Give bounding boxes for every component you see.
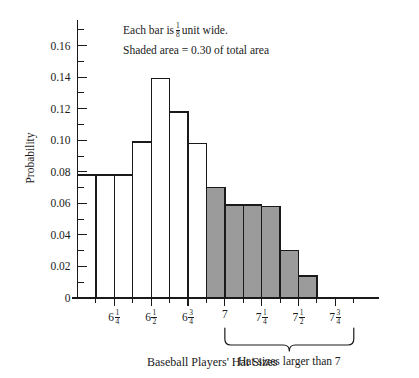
y-tick-label: 0.08 [50,166,70,178]
x-tick-whole: 7 [222,309,228,321]
brace-path-group [225,328,354,351]
y-tick-label: 0.10 [50,134,70,146]
x-tick-whole: 7 [256,312,262,324]
histogram-bar [170,112,188,298]
annotation-bar-width: Each bar is 1 8 unit wide. [123,22,228,39]
histogram-bar [114,175,132,298]
x-tick-label: 734 [329,309,341,326]
x-tick-fraction: 34 [188,309,194,326]
x-tick-label: 634 [182,309,194,326]
histogram-bar [151,79,169,298]
annotation-bar-width-prefix: Each bar is [123,24,174,36]
fraction-denominator: 4 [336,318,342,326]
x-tick-label: 714 [256,309,268,326]
histogram-bar-shaded [280,251,298,298]
fraction-numerator: 1 [262,309,268,317]
histogram-bar-shaded [243,205,261,298]
histogram-bar [78,175,96,298]
chart-canvas [0,0,419,378]
bars-group [78,79,317,298]
histogram-bar-shaded [225,205,243,298]
fraction-denominator: 4 [262,318,268,326]
curly-brace-icon [225,328,354,351]
x-tick-whole: 6 [108,312,114,324]
y-tick-label: 0.04 [50,229,70,241]
x-tick-label: 614 [108,309,120,326]
annotation-shaded-area: Shaded area = 0.30 of total area [123,44,269,56]
y-tick-label: 0.02 [50,260,70,272]
x-tick-label: 612 [145,309,157,326]
histogram-bar [188,143,206,298]
fraction-numerator: 1 [115,309,121,317]
histogram-bar [133,142,151,298]
histogram-bar [96,175,114,298]
x-tick-fraction: 34 [336,309,342,326]
y-tick-label: 0.12 [50,103,70,115]
y-tick-label: 0.14 [50,71,70,83]
fraction-denominator: 2 [151,318,157,326]
fraction-numerator: 1 [176,22,180,30]
fraction-denominator: 2 [299,318,305,326]
histogram-bar-shaded [262,207,280,298]
x-tick-fraction: 14 [115,309,121,326]
fraction-numerator: 1 [299,309,305,317]
x-tick-whole: 7 [329,312,335,324]
x-tick-whole: 6 [145,312,151,324]
x-tick-whole: 7 [293,312,299,324]
fraction-numerator: 1 [151,309,157,317]
x-tick-fraction: 12 [151,309,157,326]
x-tick-label: 712 [293,309,305,326]
y-tick-label: 0.16 [50,40,70,52]
fraction-numerator: 3 [188,309,194,317]
y-axis-title: Probability [24,128,36,188]
y-tick-label: 0.06 [50,197,70,209]
y-tick-label: 0 [65,292,71,304]
fraction-denominator: 4 [115,318,121,326]
fraction-one-eighth: 1 8 [176,22,180,39]
x-tick-fraction: 14 [262,309,268,326]
histogram-bar-shaded [299,276,317,298]
x-tick-whole: 6 [182,312,188,324]
fraction-numerator: 3 [336,309,342,317]
fraction-denominator: 4 [188,318,194,326]
fraction-denominator: 8 [176,31,180,39]
brace-label-hat-sizes-larger-than-7: Hat sizes larger than 7 [238,355,341,367]
histogram-figure: Probability Baseball Players' Hat Sizes … [0,0,419,378]
annotation-bar-width-suffix: unit wide. [182,24,228,36]
x-tick-label: 7 [222,309,228,321]
x-tick-fraction: 12 [299,309,305,326]
histogram-bar-shaded [206,188,224,298]
